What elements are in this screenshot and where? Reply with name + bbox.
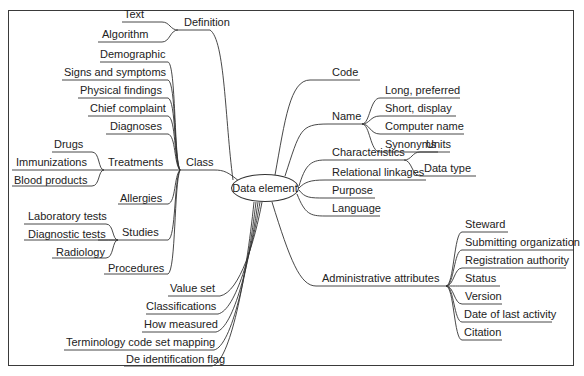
node-laboratory-tests[interactable]: Laboratory tests bbox=[28, 210, 107, 223]
node-class[interactable]: Class bbox=[186, 156, 214, 169]
node-code[interactable]: Code bbox=[332, 66, 358, 79]
node-language[interactable]: Language bbox=[332, 202, 381, 215]
node-de-identification-flag[interactable]: De identification flag bbox=[126, 353, 225, 366]
node-diagnoses[interactable]: Diagnoses bbox=[110, 120, 162, 133]
node-text[interactable]: Text bbox=[124, 8, 144, 21]
node-terminology-code-set-mapping[interactable]: Terminology code set mapping bbox=[66, 336, 215, 349]
node-how-measured[interactable]: How measured bbox=[144, 318, 218, 331]
node-physical-findings[interactable]: Physical findings bbox=[80, 84, 162, 97]
node-allergies[interactable]: Allergies bbox=[120, 192, 162, 205]
node-algorithm[interactable]: Algorithm bbox=[102, 28, 148, 41]
node-registration-authority[interactable]: Registration authority bbox=[465, 254, 569, 267]
node-data-type[interactable]: Data type bbox=[424, 162, 471, 175]
node-diagnostic-tests[interactable]: Diagnostic tests bbox=[28, 228, 106, 241]
node-characteristics[interactable]: Characteristics bbox=[332, 146, 405, 159]
node-drugs[interactable]: Drugs bbox=[54, 138, 83, 151]
node-signs-and-symptoms[interactable]: Signs and symptoms bbox=[64, 66, 166, 79]
node-relational-linkages[interactable]: Relational linkages bbox=[332, 166, 424, 179]
node-short-display[interactable]: Short, display bbox=[385, 102, 452, 115]
node-long-preferred[interactable]: Long, preferred bbox=[385, 84, 460, 97]
node-classifications[interactable]: Classifications bbox=[146, 300, 216, 313]
node-radiology[interactable]: Radiology bbox=[56, 246, 105, 259]
node-name[interactable]: Name bbox=[332, 110, 361, 123]
node-administrative-attributes[interactable]: Administrative attributes bbox=[322, 272, 439, 285]
node-studies[interactable]: Studies bbox=[122, 226, 159, 239]
node-purpose[interactable]: Purpose bbox=[332, 184, 373, 197]
node-computer-name[interactable]: Computer name bbox=[385, 120, 464, 133]
node-version[interactable]: Version bbox=[465, 290, 502, 303]
node-value-set[interactable]: Value set bbox=[170, 282, 215, 295]
node-submitting-organization[interactable]: Submitting organization bbox=[465, 236, 580, 249]
node-procedures[interactable]: Procedures bbox=[108, 262, 164, 275]
node-definition[interactable]: Definition bbox=[184, 16, 230, 29]
node-treatments[interactable]: Treatments bbox=[108, 156, 163, 169]
node-demographic[interactable]: Demographic bbox=[100, 48, 165, 61]
node-units[interactable]: Units bbox=[426, 138, 451, 151]
node-date-of-last-activity[interactable]: Date of last activity bbox=[464, 308, 556, 321]
node-immunizations[interactable]: Immunizations bbox=[16, 156, 87, 169]
node-steward[interactable]: Steward bbox=[465, 218, 505, 231]
node-blood-products[interactable]: Blood products bbox=[14, 174, 87, 187]
node-status[interactable]: Status bbox=[465, 272, 496, 285]
center-node-data-element[interactable]: Data element bbox=[231, 174, 299, 202]
node-citation[interactable]: Citation bbox=[464, 326, 501, 339]
node-chief-complaint[interactable]: Chief complaint bbox=[90, 102, 166, 115]
